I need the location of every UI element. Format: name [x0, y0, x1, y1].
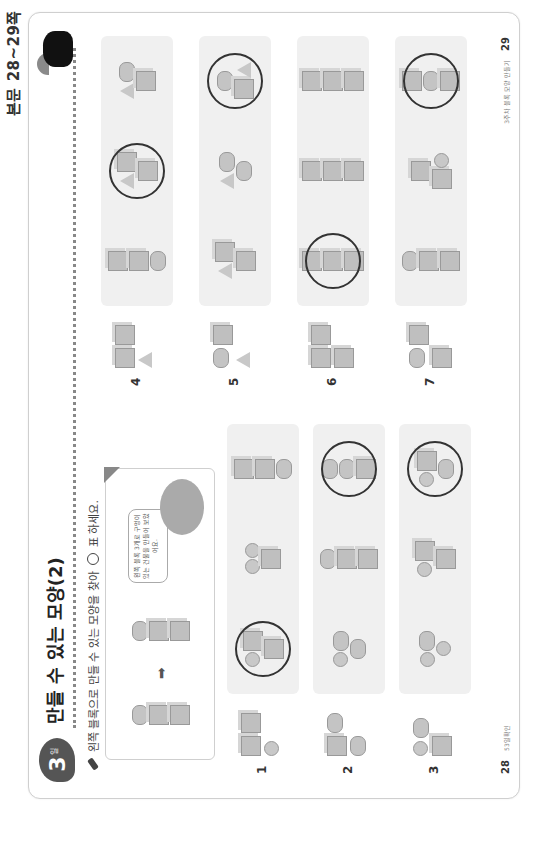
- cube-block: [215, 243, 235, 263]
- page-number-left: 28: [500, 760, 511, 774]
- cube-block: [409, 325, 429, 345]
- sphere-block: [245, 560, 260, 575]
- cone-block: [237, 63, 251, 79]
- cylinder-block: [320, 549, 336, 569]
- cube-block: [432, 736, 452, 756]
- cube-block: [264, 639, 284, 659]
- cone-block: [218, 264, 232, 280]
- sphere-block: [245, 652, 260, 667]
- sphere-block: [434, 153, 449, 168]
- choice-option[interactable]: [237, 533, 289, 585]
- cube-block: [327, 736, 347, 756]
- block-shape: [320, 539, 378, 579]
- problem-number: 7: [423, 378, 437, 386]
- choice-option[interactable]: [111, 55, 163, 107]
- given-blocks: [409, 322, 452, 368]
- block-shape: [245, 539, 281, 579]
- choice-option[interactable]: [111, 235, 163, 287]
- choice-option-circled[interactable]: [111, 145, 163, 197]
- block-shape: [234, 449, 292, 489]
- cube-block: [436, 549, 456, 569]
- given-blocks: [241, 710, 279, 756]
- choice-option[interactable]: [323, 533, 375, 585]
- cylinder-block: [132, 621, 148, 641]
- cube-block: [234, 459, 254, 479]
- choice-option[interactable]: [307, 55, 359, 107]
- cube-block: [241, 713, 261, 733]
- cube-block: [402, 71, 422, 91]
- pencil-icon: [87, 757, 99, 770]
- cube-block: [417, 451, 437, 471]
- cube-block: [170, 621, 190, 641]
- cube-block: [302, 161, 322, 181]
- cube-block: [323, 161, 343, 181]
- cylinder-block: [339, 459, 355, 479]
- problem-2: 2: [311, 414, 387, 774]
- choice-option[interactable]: [409, 623, 461, 675]
- choice-option-circled[interactable]: [237, 623, 289, 675]
- day-number: 3: [45, 756, 70, 771]
- problem-4: 4: [99, 26, 175, 386]
- cone-block: [120, 84, 134, 100]
- cube-block: [311, 348, 331, 368]
- choice-option[interactable]: [237, 443, 289, 495]
- block-shape: [119, 61, 156, 101]
- cube-block: [334, 348, 354, 368]
- rotated-spread: 본문 28~29쪽 3 일 만들 수 있는 모양(2) 왼쪽 블록으로 만들 수…: [0, 0, 537, 841]
- choice-option[interactable]: [405, 145, 457, 197]
- footer-left-caption: 53일확인: [503, 725, 510, 751]
- block-shape: [415, 539, 456, 579]
- sphere-block: [413, 741, 428, 756]
- cube-block: [149, 705, 169, 725]
- cylinder-block: [276, 459, 292, 479]
- choice-option-circled[interactable]: [307, 235, 359, 287]
- cube-block: [356, 459, 376, 479]
- cube-block: [115, 348, 135, 368]
- choices-panel: [399, 424, 471, 694]
- cone-block: [138, 352, 152, 368]
- choice-option[interactable]: [409, 533, 461, 585]
- example-result-shape: [132, 611, 190, 651]
- choices-panel: [297, 36, 369, 306]
- cylinder-block: [350, 736, 366, 756]
- choice-option-circled[interactable]: [209, 55, 261, 107]
- day-unit: 일: [48, 748, 59, 755]
- choices-panel: [101, 36, 173, 306]
- block-shape: [302, 61, 364, 101]
- choice-option-circled[interactable]: [323, 443, 375, 495]
- cube-block: [243, 631, 263, 651]
- problem-1: 1: [225, 414, 301, 774]
- cube-block: [344, 71, 364, 91]
- choice-option-circled[interactable]: [405, 55, 457, 107]
- problem-number: 1: [255, 766, 269, 774]
- problem-7: 7: [393, 26, 469, 386]
- choices-panel: [227, 424, 299, 694]
- choice-option[interactable]: [323, 623, 375, 675]
- example-blocks: ➡: [132, 611, 190, 735]
- block-shape: [333, 629, 366, 669]
- cube-block: [138, 161, 158, 181]
- cube-block: [415, 541, 435, 561]
- problem-6: 6: [295, 26, 371, 386]
- cylinder-block: [423, 71, 439, 91]
- cube-block: [108, 251, 128, 271]
- choice-option[interactable]: [209, 235, 261, 287]
- choices-panel: [199, 36, 271, 306]
- lesson-title: 만들 수 있는 모양(2): [41, 557, 67, 724]
- problem-number: 6: [325, 378, 339, 386]
- cylinder-block: [150, 251, 166, 271]
- instruction-text-prefix: 왼쪽 블록으로 만들 수 있는 모양을 찾아: [85, 571, 101, 752]
- problem-5: 5: [197, 26, 273, 386]
- choice-option[interactable]: [307, 145, 359, 197]
- cylinder-block: [322, 459, 338, 479]
- choice-option[interactable]: [405, 235, 457, 287]
- cone-block: [220, 174, 234, 190]
- dotted-divider: [73, 48, 76, 728]
- cube-block: [261, 549, 281, 569]
- choice-option-circled[interactable]: [409, 443, 461, 495]
- cube-block: [344, 251, 364, 271]
- cylinder-block: [213, 348, 229, 368]
- choice-option[interactable]: [209, 145, 261, 197]
- cube-block: [255, 459, 275, 479]
- arrow-right-icon: ➡: [153, 667, 169, 679]
